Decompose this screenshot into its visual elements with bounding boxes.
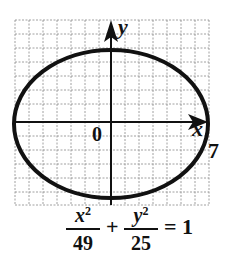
vertex-label: 7 (208, 138, 219, 164)
y-axis-label: y (118, 14, 128, 40)
ellipse-equation: x2 49 + y2 25 = 1 (66, 204, 216, 258)
term-x: x2 49 (66, 204, 100, 254)
equals-one: = 1 (164, 214, 193, 240)
term-y: y2 25 (124, 204, 158, 254)
x-axis-label: x (192, 116, 203, 142)
origin-label: 0 (92, 123, 102, 146)
plus-sign: + (106, 214, 119, 240)
